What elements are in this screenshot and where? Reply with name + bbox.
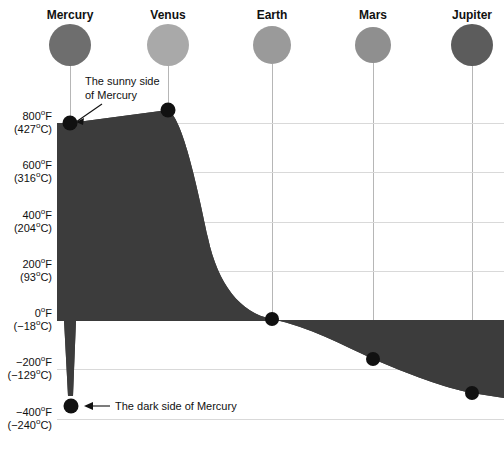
planet-label-mercury: Mercury: [47, 8, 94, 22]
planet-disc-mercury: [49, 24, 91, 66]
y-tick-0-f: 0oF: [35, 307, 52, 319]
planet-disc-mars: [355, 27, 391, 63]
datapoint-jupiter: [465, 386, 479, 400]
datapoint-mars: [366, 352, 380, 366]
y-tick-800-c: (427oC): [0, 123, 52, 136]
y-tick-800-f: 800oF: [22, 110, 52, 122]
gridline-200: [57, 271, 504, 272]
planet-disc-earth: [253, 26, 291, 64]
datapoint-earth: [265, 312, 279, 326]
y-tick-minus400: −400oF (−240oC): [0, 406, 52, 432]
sunny-side-callout: The sunny side of Mercury: [85, 74, 160, 102]
gridline-minus200: [57, 369, 504, 370]
gridline-600: [57, 172, 504, 173]
area-and-leaders: [0, 0, 504, 460]
y-tick-200-c: (93oC): [0, 271, 52, 284]
y-tick-minus400-f: −400oF: [16, 406, 52, 418]
datapoint-venus: [161, 103, 176, 118]
stem-earth: [272, 64, 273, 319]
y-tick-0: 0oF (−18oC): [0, 307, 52, 333]
planet-disc-venus: [147, 24, 189, 66]
planet-label-venus: Venus: [150, 8, 185, 22]
sunny-side-callout-line2: of Mercury: [85, 88, 160, 102]
y-tick-800: 800oF (427oC): [0, 110, 52, 136]
y-tick-200: 200oF (93oC): [0, 258, 52, 284]
y-tick-600-f: 600oF: [22, 159, 52, 171]
y-tick-200-f: 200oF: [22, 258, 52, 270]
dark-side-callout: The dark side of Mercury: [115, 399, 237, 413]
stem-jupiter: [472, 66, 473, 393]
y-tick-400-f: 400oF: [22, 209, 52, 221]
y-tick-600-c: (316oC): [0, 172, 52, 185]
y-tick-600: 600oF (316oC): [0, 159, 52, 185]
datapoint-mercury-dark: [64, 399, 79, 414]
planet-label-mars: Mars: [359, 8, 387, 22]
y-tick-minus200-f: −200oF: [16, 356, 52, 368]
planet-label-earth: Earth: [257, 8, 288, 22]
stem-mars: [373, 63, 374, 360]
planet-temperature-chart: Mercury Venus Earth Mars Jupiter 800oF (…: [0, 0, 504, 460]
planet-label-jupiter: Jupiter: [452, 8, 492, 22]
gridline-minus400: [57, 419, 504, 420]
gridline-800: [57, 123, 504, 124]
y-tick-minus400-c: (−240oC): [0, 419, 52, 432]
datapoint-mercury-sunny: [63, 116, 78, 131]
y-tick-400-c: (204oC): [0, 222, 52, 235]
y-tick-400: 400oF (204oC): [0, 209, 52, 235]
gridline-400: [57, 222, 504, 223]
planet-disc-jupiter: [451, 24, 493, 66]
stem-mercury: [70, 66, 71, 123]
gridline-zero: [57, 320, 504, 321]
sunny-side-callout-line1: The sunny side: [85, 74, 160, 88]
y-tick-minus200: −200oF (−129oC): [0, 356, 52, 382]
y-tick-minus200-c: (−129oC): [0, 369, 52, 382]
y-tick-0-c: (−18oC): [0, 320, 52, 333]
